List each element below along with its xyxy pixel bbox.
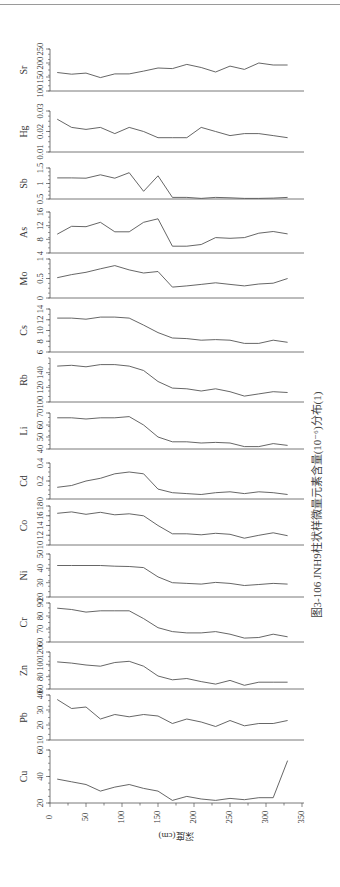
panel-sb: 0.511.5Sb <box>18 163 304 205</box>
series-label-pb: Pb <box>18 712 29 723</box>
data-line-sr <box>57 63 287 78</box>
data-line-cs <box>57 317 287 343</box>
y-tick-label: 0 <box>35 296 45 300</box>
panel-ni: 20304050Ni <box>18 550 304 602</box>
y-tick-label: 50 <box>35 550 45 559</box>
y-tick-label: 16 <box>35 512 45 521</box>
y-tick-label: 120 <box>35 646 45 659</box>
y-tick-label: 4 <box>35 250 45 255</box>
y-tick-label: 150 <box>35 71 45 84</box>
depth-axis: 050100150200250300350深度(cm) <box>44 803 306 842</box>
y-tick-label: 100 <box>35 85 45 98</box>
x-tick-label: 150 <box>152 811 162 824</box>
data-line-sb <box>57 173 287 199</box>
data-line-li <box>57 417 287 447</box>
y-tick-label: 0.5 <box>35 273 45 284</box>
panel-mo: 00.51Mo <box>18 257 304 300</box>
y-tick-label: 10 <box>35 541 45 550</box>
y-tick-label: 1.5 <box>35 163 45 174</box>
series-label-cd: Cd <box>18 475 29 487</box>
panel-pb: 10203040Pb <box>18 691 304 745</box>
data-line-pb <box>57 700 287 727</box>
data-line-co <box>57 512 287 538</box>
x-tick-label: 0 <box>44 815 54 819</box>
series-label-sr: Sr <box>18 65 29 75</box>
data-line-mo <box>57 266 287 288</box>
series-label-ni: Ni <box>18 570 29 580</box>
y-tick-label: 140 <box>35 366 45 379</box>
y-tick-label: 40 <box>35 445 45 454</box>
y-tick-label: 14 <box>35 304 45 313</box>
x-tick-label: 200 <box>188 811 198 824</box>
x-tick-label: 300 <box>260 811 270 824</box>
y-tick-label: 0.03 <box>35 104 45 119</box>
y-tick-label: 60 <box>35 421 45 430</box>
y-tick-label: 12 <box>35 221 45 230</box>
y-tick-label: 14 <box>35 521 45 530</box>
panel-cu: 204060Cu <box>18 746 304 808</box>
y-tick-label: 0.2 <box>35 476 45 487</box>
panel-rb: 100120140Rb <box>18 358 304 408</box>
y-tick-label: 70 <box>35 625 45 634</box>
x-axis-label: 深度(cm) <box>159 831 194 842</box>
y-tick-label: 18 <box>35 502 45 511</box>
x-tick-label: 250 <box>224 811 234 824</box>
y-tick-label: 90 <box>35 599 45 608</box>
y-tick-label: 40 <box>35 691 45 700</box>
series-label-as: As <box>18 227 29 238</box>
series-label-cu: Cu <box>18 771 29 783</box>
series-label-cs: Cs <box>18 325 29 336</box>
y-tick-label: 0 <box>35 497 45 501</box>
y-tick-label: 20 <box>35 721 45 730</box>
series-label-hg: Hg <box>18 125 29 137</box>
x-tick-label: 50 <box>80 813 90 822</box>
y-tick-label: 70 <box>35 409 45 418</box>
y-tick-label: 10 <box>35 326 45 335</box>
panel-co: 1012141618Co <box>18 502 304 550</box>
y-tick-label: 40 <box>35 772 45 781</box>
y-tick-label: 40 <box>35 564 45 573</box>
y-tick-label: 100 <box>35 658 45 671</box>
y-tick-label: 250 <box>35 43 45 56</box>
data-line-ni <box>57 566 287 586</box>
y-tick-label: 50 <box>35 433 45 442</box>
y-tick-label: 120 <box>35 381 45 394</box>
x-tick-label: 100 <box>116 811 126 824</box>
panel-li: 40506070Li <box>18 409 304 454</box>
y-tick-label: 0.4 <box>35 457 45 468</box>
y-tick-label: 12 <box>35 316 45 325</box>
y-tick-label: 16 <box>35 208 45 217</box>
panel-cr: 60708090Cr <box>18 599 304 647</box>
series-label-co: Co <box>18 520 29 532</box>
panel-cd: 00.20.4Cd <box>18 457 304 501</box>
data-line-zn <box>57 661 287 685</box>
data-line-cr <box>57 608 287 638</box>
series-label-li: Li <box>18 426 29 435</box>
y-tick-label: 200 <box>35 57 45 70</box>
y-tick-label: 0.01 <box>35 145 45 160</box>
series-label-zn: Zn <box>18 665 29 676</box>
y-tick-label: 0.02 <box>35 124 45 139</box>
data-line-cu <box>57 761 287 801</box>
panel-as: 481216As <box>18 208 304 255</box>
y-tick-label: 6 <box>35 350 45 354</box>
data-line-cd <box>57 472 287 495</box>
y-tick-label: 20 <box>35 799 45 808</box>
data-line-as <box>57 219 287 246</box>
series-label-mo: Mo <box>18 272 29 286</box>
y-tick-label: 60 <box>35 638 45 647</box>
panel-zn: 6080100120Zn <box>18 646 304 694</box>
y-tick-label: 30 <box>35 706 45 715</box>
panel-cs: 68101214Cs <box>18 304 304 354</box>
y-tick-label: 100 <box>35 396 45 409</box>
figure-caption: 图3-106 JNH9柱状样微量元素含量(10⁻⁶)分布(1) <box>306 340 326 670</box>
y-tick-label: 60 <box>35 746 45 755</box>
y-tick-label: 1 <box>35 181 45 185</box>
y-tick-label: 80 <box>35 612 45 621</box>
series-label-cr: Cr <box>18 617 29 628</box>
x-tick-label: 350 <box>296 811 306 824</box>
trace-element-depth-profile-chart: 100150200250Sr0.010.020.03Hg0.511.5Sb481… <box>0 0 340 887</box>
y-tick-label: 30 <box>35 578 45 587</box>
panel-hg: 0.010.020.03Hg <box>18 104 304 160</box>
y-tick-label: 12 <box>35 531 45 540</box>
